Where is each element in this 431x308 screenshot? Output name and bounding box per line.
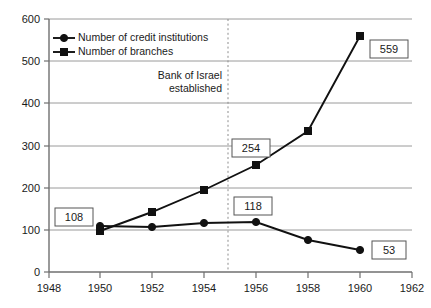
legend-item-credit-institutions[interactable]: Number of credit institutions bbox=[53, 31, 208, 43]
chart-container: 600 500 400 300 200 100 0 1948 1950 1952… bbox=[0, 0, 431, 308]
data-label-text-254: 254 bbox=[242, 142, 260, 154]
annotation-line-2: established bbox=[169, 82, 222, 94]
data-label-118: 118 bbox=[234, 197, 272, 215]
legend-label-credit-institutions: Number of credit institutions bbox=[78, 31, 208, 43]
x-tick-label-1950: 1950 bbox=[88, 282, 112, 294]
branches-marker-1960 bbox=[357, 33, 364, 40]
y-axis-tick-labels: 600 500 400 300 200 100 0 bbox=[22, 13, 40, 278]
legend-marker-circle-icon bbox=[60, 34, 67, 41]
y-tick-label-300: 300 bbox=[22, 140, 40, 152]
x-tick-label-1960: 1960 bbox=[348, 282, 372, 294]
branches-line bbox=[100, 36, 360, 231]
y-tick-label-400: 400 bbox=[22, 97, 40, 109]
credit-institutions-marker-1952 bbox=[148, 223, 155, 230]
credit-institutions-marker-1950 bbox=[96, 222, 103, 229]
y-axis-ticks bbox=[44, 19, 49, 272]
annotation-line-1: Bank of Israel bbox=[158, 69, 222, 81]
credit-institutions-line bbox=[100, 222, 360, 250]
data-label-53: 53 bbox=[372, 241, 406, 259]
y-tick-label-200: 200 bbox=[22, 182, 40, 194]
x-tick-label-1948: 1948 bbox=[37, 282, 61, 294]
x-axis-ticks bbox=[49, 272, 412, 278]
data-label-text-559: 559 bbox=[380, 43, 398, 55]
y-tick-label-0: 0 bbox=[34, 266, 40, 278]
credit-institutions-marker-1960 bbox=[356, 246, 363, 253]
credit-institutions-marker-1956 bbox=[252, 218, 259, 225]
data-label-text-108: 108 bbox=[65, 211, 83, 223]
data-label-text-53: 53 bbox=[383, 244, 395, 256]
legend-marker-square-icon bbox=[61, 49, 68, 56]
data-label-text-118: 118 bbox=[244, 200, 262, 212]
y-tick-label-100: 100 bbox=[22, 224, 40, 236]
line-chart: 600 500 400 300 200 100 0 1948 1950 1952… bbox=[0, 0, 431, 308]
y-tick-label-500: 500 bbox=[22, 55, 40, 67]
series-number-of-branches bbox=[97, 33, 364, 235]
x-tick-label-1962: 1962 bbox=[400, 282, 424, 294]
credit-institutions-marker-1954 bbox=[200, 219, 207, 226]
data-label-559: 559 bbox=[370, 40, 408, 58]
branches-marker-1958 bbox=[305, 128, 312, 135]
chart-legend: Number of credit institutions Number of … bbox=[53, 31, 208, 57]
x-tick-label-1958: 1958 bbox=[296, 282, 320, 294]
series-number-of-credit-institutions bbox=[96, 218, 363, 253]
credit-institutions-marker-1958 bbox=[304, 236, 311, 243]
legend-label-branches: Number of branches bbox=[78, 45, 173, 57]
y-tick-label-600: 600 bbox=[22, 13, 40, 25]
legend-item-branches[interactable]: Number of branches bbox=[53, 45, 173, 57]
branches-marker-1954 bbox=[201, 187, 208, 194]
x-tick-label-1954: 1954 bbox=[192, 282, 216, 294]
x-tick-label-1952: 1952 bbox=[140, 282, 164, 294]
data-label-108: 108 bbox=[55, 208, 93, 226]
data-label-254: 254 bbox=[232, 139, 270, 157]
branches-marker-1952 bbox=[149, 209, 156, 216]
branches-marker-1956 bbox=[253, 162, 260, 169]
x-axis-tick-labels: 1948 1950 1952 1954 1956 1958 1960 1962 bbox=[37, 282, 424, 294]
x-tick-label-1956: 1956 bbox=[244, 282, 268, 294]
